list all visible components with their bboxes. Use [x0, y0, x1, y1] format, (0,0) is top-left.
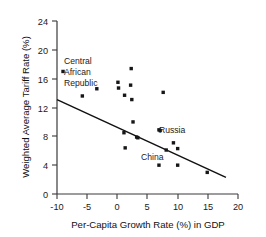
x-tick-label-0: 0: [114, 202, 119, 212]
scatter-plot-canvas: 24 20 16 12 8 4 0 -10 -5 0 5 10 15 20 Pe…: [0, 0, 266, 237]
x-tick-label-20: 20: [233, 202, 243, 212]
data-point: [172, 141, 175, 144]
axes-group: [57, 21, 238, 194]
x-axis-ticks: -10 -5 0 5 10 15 20: [50, 194, 243, 212]
x-axis-title: Per-Capita Growth Rate (%) in GDP: [71, 219, 225, 230]
x-tick-label-neg5: -5: [83, 202, 91, 212]
data-point: [123, 94, 126, 97]
data-point: [206, 171, 209, 174]
x-tick-label-15: 15: [203, 202, 213, 212]
data-point: [176, 147, 179, 150]
y-tick-label-24: 24: [38, 17, 48, 27]
y-tick-label-8: 8: [43, 132, 48, 142]
data-point: [117, 86, 120, 89]
data-point: [129, 83, 132, 86]
annotation-china: China: [141, 152, 164, 162]
data-point: [116, 81, 119, 84]
data-point: [136, 136, 139, 139]
y-tick-label-0: 0: [43, 190, 48, 200]
annotation-central-african-republic: Central African Republic: [64, 56, 98, 88]
x-tick-label-5: 5: [144, 202, 149, 212]
data-point: [176, 163, 179, 166]
x-tick-label-10: 10: [173, 202, 183, 212]
data-point-china: [165, 148, 168, 151]
data-point: [130, 98, 133, 101]
x-tick-label-neg10: -10: [50, 202, 63, 212]
y-tick-label-20: 20: [38, 46, 48, 56]
data-point: [81, 94, 84, 97]
y-axis-ticks: 24 20 16 12 8 4 0: [38, 17, 57, 200]
data-point: [161, 91, 164, 94]
y-tick-label-12: 12: [38, 104, 48, 114]
annotation-car-line3: Republic: [64, 78, 98, 88]
scatter-chart-figure: 24 20 16 12 8 4 0 -10 -5 0 5 10 15 20 Pe…: [0, 0, 266, 237]
y-tick-label-4: 4: [43, 161, 48, 171]
data-point: [131, 120, 134, 123]
data-point: [122, 131, 125, 134]
data-point: [157, 163, 160, 166]
data-point: [130, 67, 133, 70]
y-axis-title: Weighted Average Tariff Rate (%): [20, 36, 31, 178]
trend-line: [57, 100, 226, 178]
data-point: [123, 146, 126, 149]
annotation-car-line2: African: [64, 67, 91, 77]
annotation-russia: Russia: [159, 125, 185, 135]
annotation-car-line1: Central: [64, 56, 92, 66]
y-tick-label-16: 16: [38, 75, 48, 85]
